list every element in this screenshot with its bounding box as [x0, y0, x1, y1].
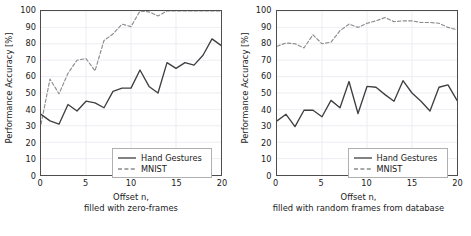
x-tick-label: 20 [217, 178, 227, 188]
y-tick-label: 40 [261, 105, 271, 115]
y-tick-label: 20 [261, 138, 271, 148]
y-axis-label-left: Performance Accuracy [%] [2, 0, 16, 176]
y-tick-label: 0 [266, 171, 271, 181]
legend-key-dashed-line-icon [117, 164, 137, 174]
y-tick-label: 100 [20, 5, 36, 15]
legend-key-dashed-line-icon [353, 164, 373, 174]
y-tick-label: 60 [26, 71, 36, 81]
legend-right: Hand Gestures MNIST [348, 148, 448, 178]
legend-left: Hand Gestures MNIST [112, 148, 212, 178]
legend-label-hand-gestures-left: Hand Gestures [141, 153, 202, 163]
x-axis-ticks-left: 05101520 [40, 178, 222, 192]
x-axis-label-right: Offset n, filled with random frames from… [250, 192, 468, 214]
y-tick-label: 0 [31, 171, 36, 181]
legend-item-hand-gestures-right: Hand Gestures [353, 152, 442, 163]
y-tick-label: 40 [26, 105, 36, 115]
x-axis-label-right-line1: Offset n, [341, 192, 377, 202]
chart-panel-random-frames: Performance Accuracy [%] 010203040506070… [236, 0, 471, 236]
x-tick-label: 0 [37, 178, 42, 188]
x-axis-label-left-line2: filled with zero-frames [30, 203, 232, 214]
y-tick-label: 10 [26, 154, 36, 164]
x-tick-label: 5 [318, 178, 323, 188]
x-axis-ticks-right: 05101520 [276, 178, 458, 192]
legend-key-solid-line-icon [353, 153, 373, 163]
legend-key-solid-line-icon [117, 153, 137, 163]
y-tick-label: 90 [261, 22, 271, 32]
x-tick-label: 5 [83, 178, 88, 188]
legend-item-mnist-left: MNIST [117, 163, 206, 174]
y-tick-label: 30 [26, 121, 36, 131]
x-tick-label: 10 [361, 178, 371, 188]
y-tick-label: 30 [261, 121, 271, 131]
y-tick-label: 70 [26, 55, 36, 65]
legend-label-mnist-left: MNIST [141, 164, 167, 174]
x-tick-label: 0 [273, 178, 278, 188]
y-tick-label: 60 [261, 71, 271, 81]
y-axis-ticks-right: 0102030405060708090100 [251, 0, 275, 176]
y-axis-ticks-left: 0102030405060708090100 [15, 0, 39, 176]
legend-item-mnist-right: MNIST [353, 163, 442, 174]
x-tick-label: 20 [452, 178, 462, 188]
y-tick-label: 20 [26, 138, 36, 148]
y-tick-label: 80 [26, 38, 36, 48]
y-tick-label: 10 [261, 154, 271, 164]
y-axis-label-right: Performance Accuracy [%] [238, 0, 252, 176]
legend-item-hand-gestures-left: Hand Gestures [117, 152, 206, 163]
y-tick-label: 80 [261, 38, 271, 48]
chart-panel-zero-frames: Performance Accuracy [%] 010203040506070… [0, 0, 236, 236]
legend-label-mnist-right: MNIST [377, 164, 403, 174]
x-axis-label-right-line2: filled with random frames from database [250, 203, 468, 214]
y-tick-label: 50 [261, 88, 271, 98]
x-axis-label-left-line1: Offset n, [113, 192, 149, 202]
y-tick-label: 50 [26, 88, 36, 98]
y-tick-label: 70 [261, 55, 271, 65]
legend-label-hand-gestures-right: Hand Gestures [377, 153, 438, 163]
y-tick-label: 100 [256, 5, 272, 15]
figure-two-panel-line-charts: Performance Accuracy [%] 010203040506070… [0, 0, 471, 236]
y-tick-label: 90 [26, 22, 36, 32]
x-tick-label: 15 [407, 178, 417, 188]
x-tick-label: 15 [171, 178, 181, 188]
x-axis-label-left: Offset n, filled with zero-frames [30, 192, 232, 214]
x-tick-label: 10 [126, 178, 136, 188]
